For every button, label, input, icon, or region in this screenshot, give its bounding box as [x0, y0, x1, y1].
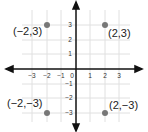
x-axis [6, 66, 142, 72]
svg-text:−3: −3 [65, 109, 73, 116]
svg-text:2: 2 [103, 72, 107, 79]
svg-text:2: 2 [68, 36, 72, 43]
y-axis [73, 2, 79, 131]
svg-text:0: 0 [70, 72, 74, 79]
point-label-2-neg3: (2,−3) [109, 100, 138, 111]
svg-text:1: 1 [68, 50, 72, 57]
svg-text:−2: −2 [65, 94, 73, 101]
svg-text:−3: −3 [28, 72, 36, 79]
svg-text:−1: −1 [65, 80, 73, 87]
svg-text:3: 3 [68, 21, 72, 28]
svg-text:−1: −1 [57, 72, 65, 79]
point-label-2-3: (2,3) [108, 28, 131, 39]
point-label-neg2-3: (−2,3) [13, 26, 42, 37]
svg-text:−2: −2 [43, 72, 51, 79]
point-2-neg3 [102, 110, 108, 116]
svg-text:3: 3 [117, 72, 121, 79]
point-neg2-neg3 [44, 110, 50, 116]
point-neg2-3 [44, 22, 50, 28]
svg-text:1: 1 [88, 72, 92, 79]
point-label-neg2-neg3: (−2,−3) [7, 98, 42, 109]
coordinate-plane: −3 −2 −1 0 1 2 3 3 2 1 −1 −2 −3 [0, 0, 148, 132]
